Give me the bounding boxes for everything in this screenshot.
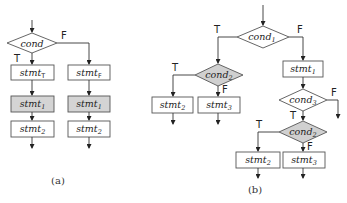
cond2-left-true-label: T	[171, 62, 179, 73]
cond3-true-label: T	[289, 110, 297, 121]
panel-b: cond1 T F cond2 T F stmt2 stmt3 stmt1 co…	[152, 5, 338, 195]
cond2-right-true-arrow	[258, 132, 279, 151]
cond3-false-arrow	[327, 100, 338, 118]
false-arrow	[57, 43, 89, 64]
caption-b: (b)	[248, 184, 262, 195]
true-label: T	[13, 53, 21, 64]
cond2-left-false-label: F	[222, 84, 228, 95]
cond-label: cond	[20, 38, 43, 49]
cond2-right-true-label: T	[255, 119, 263, 130]
cond3-false-label: F	[331, 87, 337, 98]
cond1-false-label: F	[297, 24, 303, 35]
cond1-false-arrow	[289, 37, 303, 60]
cond1-true-label: T	[213, 24, 221, 35]
caption-a: (a)	[51, 175, 65, 186]
panel-a: cond T F stmtT stmt1 stmt2 stmtF stmt1 s…	[7, 20, 110, 186]
cond2-left-true-arrow	[173, 75, 195, 96]
cond1-true-arrow	[218, 37, 237, 63]
cond2-right-false-label: F	[307, 141, 313, 152]
false-label: F	[61, 30, 67, 41]
figure: cond T F stmtT stmt1 stmt2 stmtF stmt1 s…	[0, 0, 347, 203]
